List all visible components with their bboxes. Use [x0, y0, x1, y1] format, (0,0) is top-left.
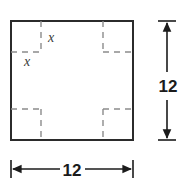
figure-canvas: x x 12 12 — [0, 0, 186, 188]
outer-square — [11, 21, 133, 140]
horizontal-dimension-label: 12 — [63, 161, 82, 180]
x-label-horizontal: x — [23, 54, 31, 69]
geometry-figure: x x 12 12 — [0, 0, 186, 188]
x-label-vertical: x — [47, 30, 55, 45]
vertical-dimension-label: 12 — [159, 77, 178, 96]
horizontal-dimension: 12 — [11, 157, 133, 181]
vertical-dimension: 12 — [157, 21, 179, 140]
